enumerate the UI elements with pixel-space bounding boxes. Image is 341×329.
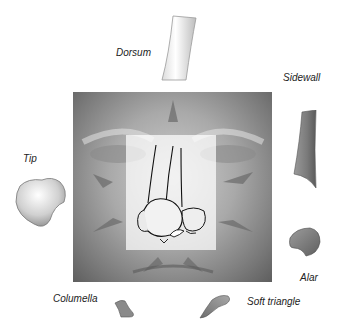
alar-subunit-shape [286, 226, 322, 258]
nasal-subunit-overlay [126, 135, 216, 250]
dorsum-subunit-shape [160, 14, 200, 82]
sidewall-subunit-shape [292, 110, 322, 190]
dorsum-label: Dorsum [116, 47, 151, 58]
tip-label: Tip [23, 153, 37, 164]
columella-subunit-shape [113, 299, 137, 319]
tip-subunit-shape [14, 176, 70, 230]
columella-label: Columella [53, 293, 97, 304]
soft-triangle-subunit-shape [198, 294, 232, 320]
alar-label: Alar [300, 272, 318, 283]
soft-triangle-label: Soft triangle [247, 296, 300, 307]
sidewall-label: Sidewall [283, 72, 320, 83]
